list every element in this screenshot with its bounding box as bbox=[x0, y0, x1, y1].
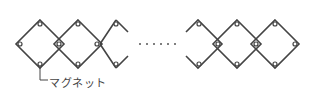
magnet-dot bbox=[273, 62, 277, 66]
label-leader-line bbox=[40, 66, 48, 80]
magnet-dot bbox=[235, 62, 239, 66]
magnet-dot bbox=[38, 22, 42, 26]
magnet-dot bbox=[114, 22, 118, 26]
magnet-dot bbox=[76, 62, 80, 66]
magnet-dot bbox=[293, 42, 297, 46]
magnet-dot bbox=[57, 42, 61, 46]
diamond-chain-diagram bbox=[0, 0, 309, 97]
magnet-dot bbox=[76, 22, 80, 26]
magnet-dot bbox=[235, 22, 239, 26]
magnet-dot bbox=[38, 62, 42, 66]
diamond-3-partial bbox=[100, 20, 128, 68]
magnet-label: マグネット bbox=[49, 74, 107, 90]
ellipsis bbox=[139, 43, 176, 45]
magnet-dot bbox=[254, 42, 258, 46]
magnet-dot bbox=[216, 42, 220, 46]
magnet-dot bbox=[273, 22, 277, 26]
magnet-dot bbox=[114, 62, 118, 66]
magnet-dot bbox=[95, 42, 99, 46]
magnet-dot bbox=[197, 62, 201, 66]
magnet-dot bbox=[197, 22, 201, 26]
magnet-dot bbox=[18, 42, 22, 46]
